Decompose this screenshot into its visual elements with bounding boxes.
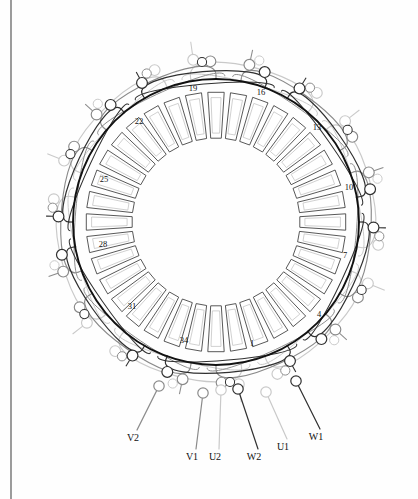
diagram-canvas: 147101316192225283134 V2V1U2W2U1W1 [0, 0, 418, 499]
terminal-label-u2: U2 [209, 451, 221, 462]
terminal-label-w2: W2 [247, 451, 261, 462]
terminal-label-u1: U1 [277, 441, 289, 452]
stator-winding-svg: 147101316192225283134 V2V1U2W2U1W1 [0, 0, 418, 499]
slot-number-31: 31 [128, 301, 137, 311]
slot-number-4: 4 [317, 309, 322, 319]
slot-number-16: 16 [257, 87, 266, 97]
slot-number-10: 10 [345, 182, 354, 192]
terminal-label-v2: V2 [127, 432, 139, 443]
slot-number-22: 22 [135, 116, 144, 126]
slot-number-19: 19 [189, 83, 198, 93]
slot-number-1: 1 [250, 338, 254, 348]
slot-number-13: 13 [313, 122, 322, 132]
slot-number-34: 34 [180, 335, 189, 345]
stator-slot-wedges [86, 92, 345, 351]
terminal-label-v1: V1 [186, 451, 198, 462]
slot-number-25: 25 [100, 174, 109, 184]
terminal-label-w1: W1 [309, 431, 323, 442]
slot-number-7: 7 [343, 250, 347, 260]
slot-number-28: 28 [99, 239, 108, 249]
terminal-label-texts: V2V1U2W2U1W1 [127, 431, 323, 462]
